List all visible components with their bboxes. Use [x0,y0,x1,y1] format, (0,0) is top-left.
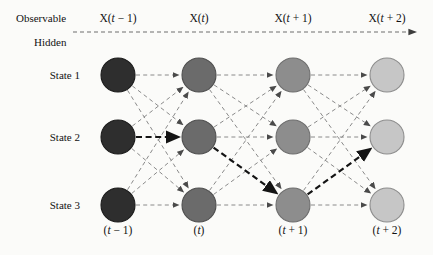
hidden-label: Hidden [34,36,66,48]
column-header-t: X(t) [189,12,208,24]
state-node-c3-s3 [276,188,310,222]
state-node-c4-s2 [370,120,404,154]
column-header-t-plus-1: X(t + 1) [274,12,311,24]
state-node-c3-s1 [276,58,310,92]
state-node-c2-s1 [182,58,216,92]
column-footer-t-minus-1: (t − 1) [104,224,133,236]
column-header-t-minus-1: X(t − 1) [99,12,136,24]
column-header-t-plus-2: X(t + 2) [368,12,405,24]
row-label-state-3: State 3 [50,199,80,211]
state-node-c1-s1 [101,58,135,92]
state-node-c2-s2 [182,120,216,154]
state-node-c1-s2 [101,120,135,154]
state-node-c1-s3 [101,188,135,222]
transition-edges [128,75,375,205]
column-footer-t-plus-2: (t + 2) [373,224,402,236]
state-node-c3-s2 [276,120,310,154]
state-node-c4-s3 [370,188,404,222]
row-label-state-1: State 1 [50,69,80,81]
state-node-c2-s3 [182,188,216,222]
observable-label: Observable [16,12,66,24]
state-node-c4-s1 [370,58,404,92]
state-nodes [101,58,404,222]
column-footer-t-plus-1: (t + 1) [279,224,308,236]
highlighted-path [136,137,370,194]
hmm-trellis-figure: Observable Hidden X(t − 1) X(t) X(t + 1)… [0,0,433,255]
column-footer-t: (t) [194,224,205,236]
row-label-state-2: State 2 [50,131,80,143]
